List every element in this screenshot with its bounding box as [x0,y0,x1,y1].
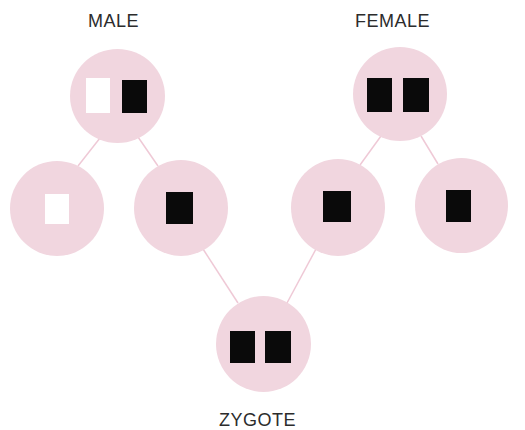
chromosome-light [86,78,110,113]
female-parent-cell [353,47,447,141]
edge-male-to-gamete-1 [78,138,100,166]
chromosome-dark [446,190,471,222]
chromosome-dark [265,331,291,363]
edge-female-to-gamete-1 [360,136,381,165]
male-gamete-2-cell [134,160,228,256]
zygote-label: ZYGOTE [219,410,296,430]
female-gamete-1-cell [291,159,385,256]
chromosome-dark [323,191,351,222]
chromosome-dark [230,331,255,363]
female-label: FEMALE [355,11,430,31]
inheritance-diagram: MALE FEMALE ZYGOTE [0,0,525,430]
male-label: MALE [88,11,139,31]
chromosome-dark [166,192,193,224]
chromosome-dark [122,80,147,113]
male-parent-cell [70,49,165,143]
zygote-cell [216,296,311,392]
chromosome-dark [367,78,392,112]
chromosome-dark [403,78,429,112]
edge-male-to-gamete-2 [138,137,158,166]
edge-female-to-gamete-2 [421,136,438,164]
edge-female-gamete-to-zygote [287,249,316,303]
male-gamete-1-cell [10,161,104,256]
female-gamete-2-cell [415,158,508,253]
chromosome-light [45,194,69,224]
edge-male-gamete-to-zygote [203,249,238,303]
